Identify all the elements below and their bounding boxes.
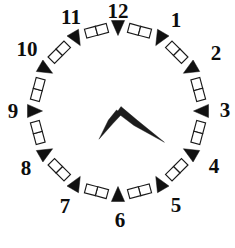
rim-segment	[33, 77, 45, 90]
hour-label-4: 4	[209, 154, 220, 178]
hour-label-2: 2	[211, 41, 222, 65]
hour-marker-7	[67, 176, 80, 192]
hour-label-10: 10	[17, 37, 38, 61]
hour-marker-2	[183, 60, 199, 73]
hour-label-1: 1	[171, 8, 182, 32]
hour-label-5: 5	[171, 193, 182, 217]
hour-label-7: 7	[60, 194, 71, 218]
rim-segment	[194, 88, 206, 101]
hour-marker-1	[156, 29, 169, 45]
rim-segment	[127, 187, 140, 199]
clock-svg: 121234567891011	[0, 0, 235, 248]
rim-segment	[84, 184, 97, 196]
hour-label-9: 9	[8, 99, 19, 123]
hour-marker-6	[111, 187, 124, 202]
minute-hand	[117, 107, 165, 143]
hour-hand	[99, 110, 122, 139]
hour-marker-3	[194, 104, 209, 117]
rim-segment	[138, 26, 151, 38]
clock-hands	[99, 107, 164, 143]
rim-segment	[30, 120, 42, 133]
hour-marker-10	[36, 60, 52, 73]
hour-label-6: 6	[115, 208, 126, 232]
clock-face-container: 121234567891011	[0, 0, 235, 248]
hour-marker-9	[28, 104, 43, 117]
rim-segment	[191, 131, 203, 144]
hour-marker-5	[156, 176, 169, 192]
hour-marker-8	[36, 149, 52, 162]
rim-segment	[95, 23, 108, 35]
hour-label-12: 12	[108, 0, 129, 23]
hour-label-8: 8	[21, 156, 32, 180]
hour-marker-4	[183, 149, 199, 162]
hour-label-3: 3	[220, 98, 231, 122]
hour-marker-11	[67, 29, 80, 45]
hour-label-11: 11	[61, 5, 81, 29]
